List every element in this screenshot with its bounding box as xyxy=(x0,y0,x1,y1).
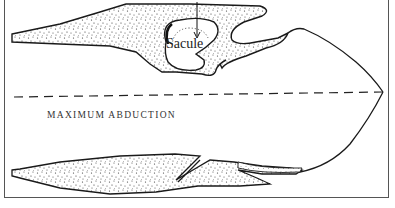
upper-outline-curve xyxy=(288,29,383,93)
diagram-drawing xyxy=(0,0,395,208)
position-label: MAXIMUM ABDUCTION xyxy=(47,110,176,120)
lower-outline-curve xyxy=(282,92,383,172)
midline-dashed xyxy=(14,92,383,97)
upper-fold-shape xyxy=(12,4,288,75)
sacule-label: Sacule xyxy=(166,36,203,52)
lower-fold-shape xyxy=(12,154,302,194)
